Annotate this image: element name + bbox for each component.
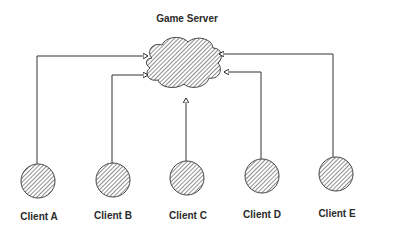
server-title: Game Server <box>156 13 218 24</box>
client-c-label: Client C <box>169 210 207 221</box>
client-d-label: Client D <box>243 209 281 220</box>
edge-client-e <box>219 54 333 157</box>
client-a-label: Client A <box>20 211 57 222</box>
client-d-node <box>245 159 279 193</box>
edge-client-b <box>112 75 148 163</box>
network-diagram <box>0 0 402 231</box>
client-b-node <box>96 163 130 197</box>
client-a-node <box>21 164 55 198</box>
client-c-node <box>170 161 204 195</box>
client-e-node <box>319 157 353 191</box>
client-e-label: Client E <box>318 208 355 219</box>
game-server-cloud <box>146 37 221 87</box>
client-b-label: Client B <box>94 210 132 221</box>
edge-client-d <box>224 72 261 159</box>
edge-client-a <box>37 56 148 164</box>
